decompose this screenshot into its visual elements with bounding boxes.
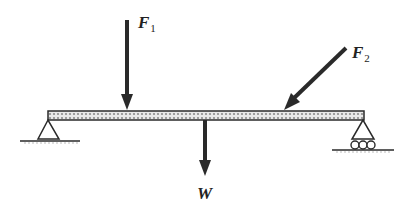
force-f2-label: F2 — [352, 44, 370, 61]
force-w-arrow — [199, 120, 211, 176]
weight-label: W — [197, 185, 212, 202]
right-roller-support — [332, 120, 394, 152]
beam — [48, 111, 364, 120]
left-pin-support — [20, 120, 80, 143]
force-f1-arrow — [121, 20, 133, 110]
force-f1-label: F1 — [138, 14, 156, 31]
force-f2-arrow — [284, 48, 346, 110]
beam-diagram: F1 F2 W — [0, 0, 411, 216]
